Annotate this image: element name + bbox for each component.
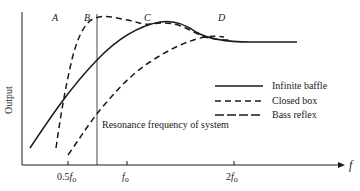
series-bass-reflex <box>68 36 224 155</box>
region-label-c: C <box>144 12 151 23</box>
tick-label-f0: fo <box>122 171 129 184</box>
legend-label-infinite-baffle: Infinite baffle <box>272 80 328 91</box>
legend-label-bass-reflex: Bass reflex <box>272 109 317 120</box>
x-axis-label: f <box>349 158 354 172</box>
legend-label-closed-box: Closed box <box>272 95 317 106</box>
x-axis-arrow-icon <box>338 162 345 168</box>
y-axis-label: Output <box>3 86 14 114</box>
speaker-response-chart: f Output 0.5fo fo 2fo Resonance frequenc… <box>0 0 360 191</box>
tick-label-half-f0: 0.5fo <box>57 171 76 184</box>
tick-label-2f0: 2fo <box>226 171 238 184</box>
resonance-annotation: Resonance frequency of system <box>102 119 229 130</box>
legend: Infinite baffle Closed box Bass reflex <box>215 80 328 120</box>
region-label-d: D <box>217 12 226 23</box>
region-label-a: A <box>51 12 59 23</box>
